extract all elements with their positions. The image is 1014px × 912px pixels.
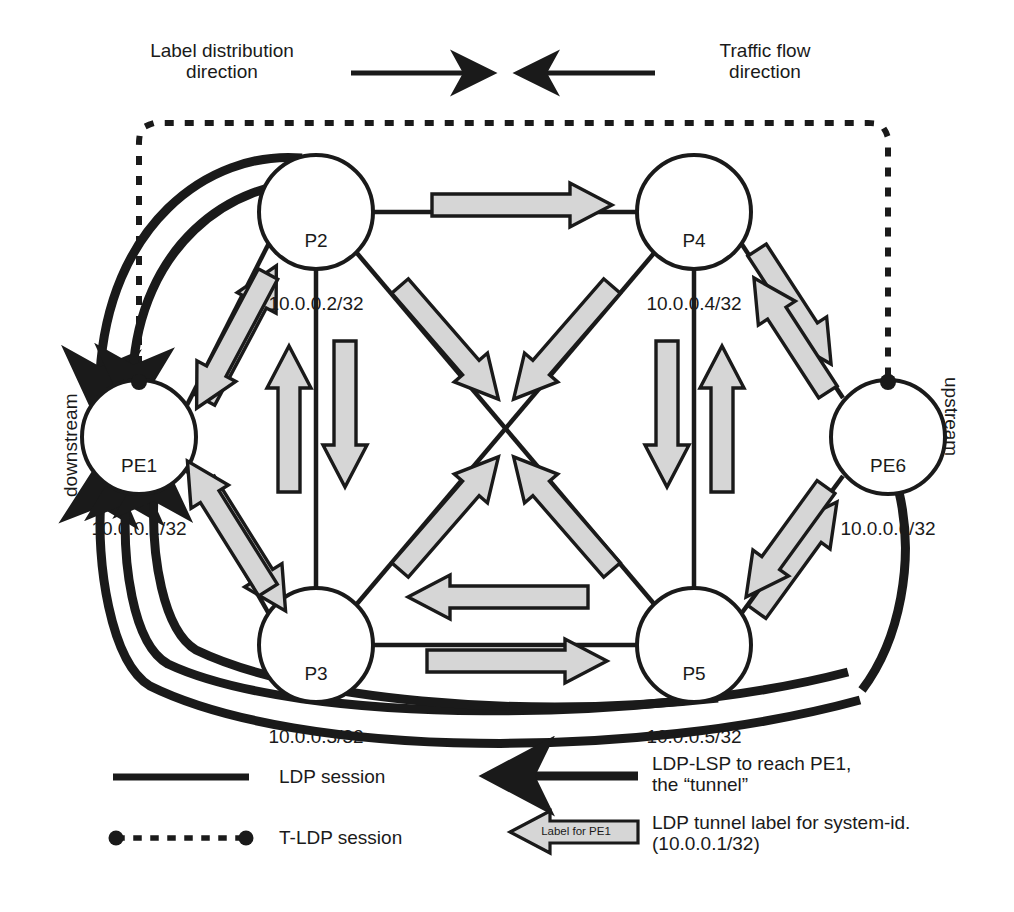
- label-distribution-caption: Label distribution direction: [112, 40, 332, 83]
- label-arrow-p3-to-p4: [383, 442, 515, 584]
- tldp-dot-pe6: [880, 374, 896, 390]
- node-name-p4: P4: [619, 230, 769, 251]
- node-address-p2: 10.0.0.2/32: [241, 293, 391, 314]
- node-label-p4: P4 10.0.0.4/32: [619, 187, 769, 357]
- node-label-p3: P3 10.0.0.3/32: [241, 620, 391, 790]
- legend-label-ldp-lsp: LDP-LSP to reach PE1, the “tunnel”: [652, 753, 851, 796]
- node-address-p4: 10.0.0.4/32: [619, 293, 769, 314]
- node-address-p5: 10.0.0.5/32: [619, 726, 769, 747]
- node-address-p3: 10.0.0.3/32: [241, 726, 391, 747]
- label-arrow-p2-to-p3: [323, 341, 367, 487]
- label-arrow-p5-to-p2: [497, 442, 629, 584]
- node-name-pe1: PE1: [64, 455, 214, 476]
- node-address-pe1: 10.0.0.1/32: [64, 518, 214, 539]
- legend-tldp-session-line: [109, 831, 254, 846]
- label-arrow-p4-to-p5: [645, 341, 689, 487]
- label-arrow-p5-to-p4: [700, 346, 744, 492]
- legend-label-ldp-session: LDP session: [279, 766, 385, 787]
- node-label-pe1: PE1 10.0.0.1/32: [64, 412, 214, 582]
- legend-label-tldp-session: T-LDP session: [279, 827, 402, 848]
- label-arrow-p5-to-p3: [408, 575, 588, 619]
- label-arrow-p4-to-p3: [497, 272, 629, 414]
- legend-label-tunnel-label: LDP tunnel label for system-id. (10.0.0.…: [652, 812, 910, 855]
- label-arrow-p2-to-p5: [383, 272, 515, 414]
- node-name-p5: P5: [619, 663, 769, 684]
- label-arrow-p2-to-p4: [432, 183, 612, 227]
- label-arrow-p3-to-p2: [267, 346, 311, 492]
- traffic-flow-caption: Traffic flow direction: [660, 40, 870, 83]
- tldp-dot-pe1: [131, 374, 147, 390]
- node-label-p2: P2 10.0.0.2/32: [241, 187, 391, 357]
- node-name-p3: P3: [241, 663, 391, 684]
- node-name-p2: P2: [241, 230, 391, 251]
- legend-chip-label-for-pe1: Label for PE1: [528, 825, 624, 838]
- node-name-pe6: PE6: [813, 455, 963, 476]
- mpls-ldp-topology-diagram: Label distribution direction Traffic flo…: [0, 0, 1014, 912]
- node-label-pe6: PE6 10.0.0.6/32: [813, 412, 963, 582]
- node-address-pe6: 10.0.0.6/32: [813, 518, 963, 539]
